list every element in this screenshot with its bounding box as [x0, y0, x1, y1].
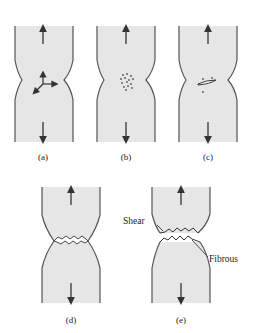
caption-c: (c)	[203, 152, 213, 162]
specimen-e	[152, 187, 210, 303]
caption-a: (a)	[38, 152, 48, 162]
shear-label: Shear	[123, 216, 145, 226]
fibrous-label: Fibrous	[209, 254, 238, 264]
caption-d: (d)	[66, 315, 77, 325]
caption-e: (e)	[176, 315, 186, 325]
fracture-sequence-diagram	[0, 0, 260, 333]
specimen-b	[97, 26, 155, 142]
specimen-c	[179, 26, 237, 142]
caption-b: (b)	[121, 152, 132, 162]
specimen-a	[15, 26, 73, 142]
specimen-d	[42, 187, 100, 303]
